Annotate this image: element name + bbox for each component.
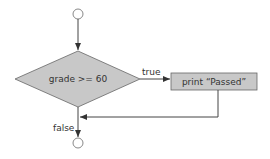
true-label: true [142, 67, 161, 77]
end-node [73, 138, 83, 148]
start-node [73, 9, 83, 19]
false-label: false [53, 123, 75, 133]
decision-label: grade >= 60 [49, 74, 108, 84]
action-label: print “Passed” [182, 77, 246, 87]
flowchart: grade >= 60 true print “Passed” false [0, 0, 270, 159]
